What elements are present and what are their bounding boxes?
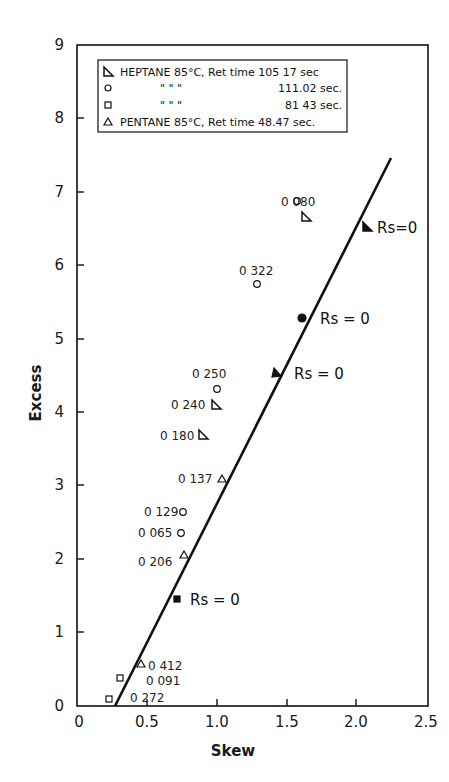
x-tick-1.0: 1.0 xyxy=(205,713,229,731)
y-tick-7: 7 xyxy=(54,183,64,201)
point-labels: 0 080 0 322 0 250 0 240 0 180 0 137 0 12… xyxy=(130,195,315,705)
x-ticks xyxy=(147,699,356,706)
legend-heptane-105: HEPTANE 85°C, Ret time 105 17 sec xyxy=(120,66,319,79)
right-triangle-marker-icon xyxy=(302,212,311,221)
label-0065: 0 065 xyxy=(138,526,172,540)
legend-ditto-3: " " " xyxy=(160,99,182,112)
y-tick-4: 4 xyxy=(54,403,64,421)
label-0250: 0 250 xyxy=(192,367,226,381)
y-tick-5: 5 xyxy=(54,330,64,348)
x-tick-0.5: 0.5 xyxy=(135,713,159,731)
y-axis-title: Excess xyxy=(27,365,45,422)
rs-annotation-heptane-81: Rs = 0 xyxy=(190,591,240,609)
label-0091: 0 091 xyxy=(146,674,180,688)
label-0129: 0 129 xyxy=(144,505,178,519)
y-tick-8: 8 xyxy=(54,109,64,127)
triangle-filled-marker-icon xyxy=(272,368,281,377)
label-0137: 0 137 xyxy=(178,472,212,486)
label-0180: 0 180 xyxy=(160,429,194,443)
right-triangle-filled-marker-icon xyxy=(363,222,372,231)
square-marker-icon xyxy=(117,675,123,681)
triangle-marker-icon xyxy=(180,551,188,558)
y-tick-2: 2 xyxy=(54,550,64,568)
circle-marker-icon xyxy=(180,509,187,516)
circle-marker-icon xyxy=(254,281,261,288)
x-tick-2.0: 2.0 xyxy=(344,713,368,731)
label-0206: 0 206 xyxy=(138,555,172,569)
label-0240: 0 240 xyxy=(171,398,205,412)
x-axis-title: Skew xyxy=(211,742,256,760)
legend-pentane: PENTANE 85°C, Ret time 48.47 sec. xyxy=(120,116,315,129)
triangle-marker-icon xyxy=(218,475,226,482)
circle-filled-marker-icon xyxy=(298,314,306,322)
y-tick-labels: 0 1 2 3 4 5 6 7 8 9 xyxy=(54,36,64,715)
rs-annotations: Rs=0 Rs = 0 Rs = 0 Rs = 0 xyxy=(190,219,417,609)
label-0322: 0 322 xyxy=(239,264,273,278)
circle-marker-icon xyxy=(178,530,185,537)
scatter-chart: 0 1 2 3 4 5 6 7 8 9 0 0.5 1.0 1.5 2.0 2.… xyxy=(0,0,449,782)
legend-heptane-81: 81 43 sec. xyxy=(285,99,342,112)
square-filled-marker-icon xyxy=(174,596,180,602)
plot-frame xyxy=(77,45,428,706)
right-triangle-marker-icon xyxy=(212,400,221,409)
y-tick-1: 1 xyxy=(54,623,64,641)
x-tick-1.5: 1.5 xyxy=(275,713,299,731)
circle-marker-icon xyxy=(214,386,221,393)
legend-ditto-2: " " " xyxy=(160,82,182,95)
x-tick-2.5: 2.5 xyxy=(414,713,438,731)
y-tick-3: 3 xyxy=(54,476,64,494)
fit-line xyxy=(115,158,391,706)
right-triangle-marker-icon xyxy=(199,430,208,439)
square-marker-icon xyxy=(106,696,112,702)
rs-annotation-heptane-111: Rs = 0 xyxy=(320,310,370,328)
x-tick-labels: 0 0.5 1.0 1.5 2.0 2.5 xyxy=(74,713,438,731)
x-tick-0: 0 xyxy=(74,713,84,731)
label-0272: 0 272 xyxy=(130,691,164,705)
y-tick-6: 6 xyxy=(54,256,64,274)
rs-annotation-heptane-105: Rs=0 xyxy=(377,219,417,237)
legend: HEPTANE 85°C, Ret time 105 17 sec " " " … xyxy=(98,60,347,132)
label-0080: 0 080 xyxy=(281,195,315,209)
legend-heptane-111: 111.02 sec. xyxy=(278,82,342,95)
rs-annotation-pentane: Rs = 0 xyxy=(294,365,344,383)
y-tick-0: 0 xyxy=(54,697,64,715)
y-tick-9: 9 xyxy=(54,36,64,54)
label-0412: 0 412 xyxy=(148,659,182,673)
y-ticks xyxy=(77,118,84,632)
